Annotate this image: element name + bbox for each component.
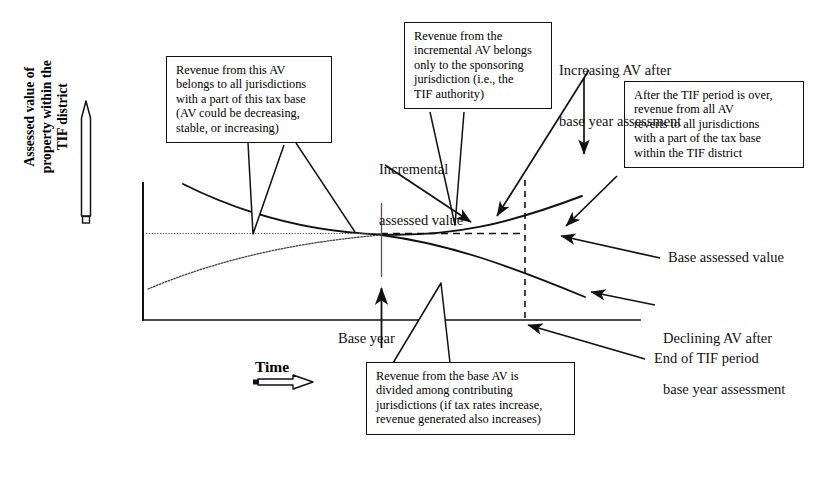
label-increasing-av: Increasing AV after base year assessment [559, 28, 681, 164]
x-axis-arrow-icon [253, 375, 313, 389]
callout-incremental-av-line-5: TIF authority) [414, 87, 543, 101]
callout-base-av-line-3: jurisdictions (if tax rates increase, [376, 398, 566, 412]
pointer-declining-av [591, 292, 655, 305]
callout-total-av-line-5: stable, or increasing) [176, 121, 323, 135]
callout-incremental-av-line-2: incremental AV belongs [414, 43, 543, 57]
callout-total-av-line-1: Revenue from this AV [176, 63, 323, 77]
pointer-end-of-tif-period [528, 325, 645, 359]
callout-total-av: Revenue from this AV belongs to all juri… [166, 56, 332, 143]
y-axis-label-line-1: Assessed value of [22, 12, 39, 222]
label-base-assessed-value: Base assessed value [668, 249, 784, 266]
x-axis-label: Time [255, 358, 289, 376]
callout-base-av-line-2: divided among contributing [376, 383, 566, 397]
callout-incremental-av: Revenue from the incremental AV belongs … [404, 22, 552, 109]
curve-incremental-av [148, 235, 381, 289]
label-declining-av-line-1: Declining AV after [663, 330, 785, 347]
callout-base-av-line-4: revenue generated also increases) [376, 412, 566, 426]
label-end-of-tif-period: End of TIF period [654, 350, 759, 367]
pointer-base-assessed-value [561, 236, 660, 258]
callout-total-av-line-2: belongs to all jurisdictions [176, 77, 323, 91]
label-base-year: Base year [338, 330, 395, 347]
diagram-canvas: Assessed value of property within the TI… [0, 0, 814, 481]
callout-incremental-av-line-3: only to the sponsoring [414, 58, 543, 72]
y-axis-label-line-3: TIF district [55, 12, 72, 222]
y-axis-label: Assessed value of property within the TI… [22, 12, 72, 222]
callout-total-av-line-4: (AV could be decreasing, [176, 106, 323, 120]
label-incremental-assessed-value-line-2: assessed value [379, 212, 463, 229]
callout-base-av: Revenue from the base AV is divided amon… [366, 362, 575, 435]
label-incremental-assessed-value-line-1: Incremental [379, 161, 463, 178]
callout-incremental-av-line-1: Revenue from the [414, 29, 543, 43]
label-increasing-av-line-2: base year assessment [559, 113, 681, 130]
callout-incremental-av-line-4: jurisdiction (i.e., the [414, 72, 543, 86]
label-incremental-assessed-value: Incremental assessed value [379, 127, 463, 263]
label-declining-av-line-2: base year assessment [663, 381, 785, 398]
y-axis-arrow-icon [82, 101, 91, 223]
callout-base-av-line-1: Revenue from the base AV is [376, 369, 566, 383]
y-axis-label-line-2: property within the [39, 12, 56, 222]
pointer-base-av-callout [393, 283, 450, 363]
label-increasing-av-line-1: Increasing AV after [559, 62, 681, 79]
callout-total-av-line-3: with a part of this tax base [176, 92, 323, 106]
